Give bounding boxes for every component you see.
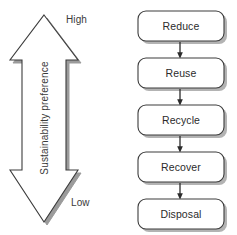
scale-axis-title: Sustainability preference bbox=[39, 61, 50, 174]
sustainability-preference-scale: High Low Sustainability preference bbox=[0, 0, 118, 235]
flow-step-label-reduce: Reduce bbox=[138, 20, 224, 32]
double-headed-arrow-icon bbox=[0, 0, 118, 235]
flow-step-label-disposal: Disposal bbox=[138, 208, 224, 220]
flow-step-label-reuse: Reuse bbox=[138, 67, 224, 79]
flow-step-label-recover: Recover bbox=[138, 161, 224, 173]
waste-hierarchy-figure: High Low Sustainability preference bbox=[0, 0, 237, 235]
scale-label-high: High bbox=[66, 14, 87, 25]
scale-label-low: Low bbox=[71, 197, 90, 208]
waste-hierarchy-flow: Reduce Reuse Recycle Recover Disposal bbox=[118, 0, 237, 235]
flow-step-label-recycle: Recycle bbox=[138, 114, 224, 126]
